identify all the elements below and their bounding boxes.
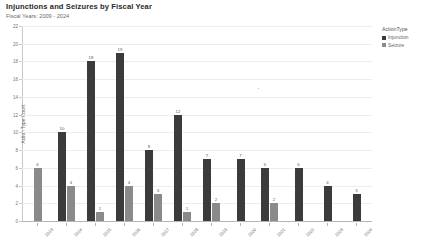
x-tick-mark [153, 223, 154, 226]
bar-seizure[interactable]: 4 [125, 186, 133, 221]
y-tick-label: 4 [15, 183, 18, 188]
x-tick-mark [240, 223, 241, 226]
bar-value-label: 8 [148, 144, 150, 149]
x-tick-mark [95, 223, 96, 226]
legend-title: ActionType [382, 26, 420, 32]
bar-group: 7 [226, 26, 255, 221]
legend-label: Injunction [388, 35, 409, 40]
y-tick-label: 10 [13, 130, 18, 135]
y-tick-label: 22 [13, 24, 18, 29]
bar-value-label: 4 [326, 180, 328, 185]
legend-label: Seizure [388, 43, 404, 48]
y-tick-label: 8 [15, 148, 18, 153]
bar-group: 4 [313, 26, 342, 221]
x-tick-mark [356, 223, 357, 226]
bar-value-label: 6 [264, 162, 266, 167]
bar-injunction[interactable]: 19 [116, 53, 124, 221]
bar-value-label: 12 [176, 109, 181, 114]
y-tick-mark [19, 97, 22, 98]
x-tick-label: 2022 [304, 227, 314, 237]
legend: ActionType InjunctionSeizure [382, 26, 420, 50]
bar-injunction[interactable]: 4 [324, 186, 332, 221]
chart-page: Injunctions and Seizures by Fiscal Year … [0, 0, 421, 240]
x-axis-labels: 2013201420152016201720182019202020212022… [22, 222, 372, 240]
y-tick-label: 20 [13, 41, 18, 46]
bar-value-label: 7 [206, 153, 208, 158]
bar-value-label: 10 [60, 126, 65, 131]
y-tick-label: 14 [13, 94, 18, 99]
y-tick-mark [19, 186, 22, 187]
bar-value-label: 2 [273, 197, 275, 202]
bar-value-label: 18 [89, 55, 94, 60]
y-tick-mark [19, 150, 22, 151]
bar-injunction[interactable]: 7 [203, 159, 211, 221]
bar-group: 62 [255, 26, 284, 221]
bar-value-label: 2 [215, 197, 217, 202]
bar-injunction[interactable]: 8 [145, 150, 153, 221]
bar-seizure[interactable]: 2 [212, 203, 220, 221]
y-tick-mark [19, 61, 22, 62]
bar-injunction[interactable]: 12 [174, 115, 182, 221]
y-tick-label: 2 [15, 201, 18, 206]
bar-group: 6 [23, 26, 52, 221]
x-tick-label: 2013 [43, 227, 53, 237]
bar-group: 181 [81, 26, 110, 221]
y-tick-label: 6 [15, 165, 18, 170]
bar-group: 194 [110, 26, 139, 221]
x-tick-label: 2016 [130, 227, 140, 237]
bar-value-label: 19 [118, 47, 123, 52]
x-tick-label: 2024 [362, 227, 372, 237]
x-tick-label: 2014 [72, 227, 82, 237]
y-tick-mark [19, 203, 22, 204]
x-tick-mark [124, 223, 125, 226]
y-tick-mark [19, 132, 22, 133]
x-tick-label: 2017 [159, 227, 169, 237]
bar-injunction[interactable]: 7 [237, 159, 245, 221]
x-tick-label: 2021 [275, 227, 285, 237]
bar-group: 3 [342, 26, 371, 221]
page-title: Injunctions and Seizures by Fiscal Year [6, 2, 152, 11]
x-tick-mark [269, 223, 270, 226]
bar-seizure[interactable]: 1 [183, 212, 191, 221]
bar-value-label: 6 [297, 162, 299, 167]
bar-group: 83 [139, 26, 168, 221]
bar-seizure[interactable]: 2 [270, 203, 278, 221]
y-tick-mark [19, 168, 22, 169]
bar-value-label: 3 [157, 188, 159, 193]
x-tick-mark [211, 223, 212, 226]
x-tick-label: 2020 [246, 227, 256, 237]
bar-seizure[interactable]: 6 [34, 168, 42, 221]
bar-value-label: 1 [99, 206, 101, 211]
bar-seizure[interactable]: 4 [67, 186, 75, 221]
bar-injunction[interactable]: 6 [261, 168, 269, 221]
y-tick-mark [19, 79, 22, 80]
x-tick-label: 2015 [101, 227, 111, 237]
y-tick-label: 18 [13, 59, 18, 64]
bar-seizure[interactable]: 3 [154, 194, 162, 221]
page-subtitle: Fiscal Years: 2009 - 2024 [6, 13, 69, 19]
bar-injunction[interactable]: 3 [353, 194, 361, 221]
plot-area: Action Type Count 0246810121416182022 61… [22, 26, 372, 222]
x-tick-mark [327, 223, 328, 226]
legend-item[interactable]: Injunction [382, 35, 420, 40]
bar-injunction[interactable]: 6 [295, 168, 303, 221]
bar-value-label: 4 [128, 180, 130, 185]
legend-swatch-injunction [382, 36, 386, 40]
bar-injunction[interactable]: 18 [87, 61, 95, 221]
y-tick-mark [19, 44, 22, 45]
y-tick-mark [19, 26, 22, 27]
legend-swatch-seizure [382, 43, 386, 47]
bar-value-label: 3 [355, 188, 357, 193]
bar-group: 72 [197, 26, 226, 221]
bar-value-label: 1 [186, 206, 188, 211]
bar-group: 6 [284, 26, 313, 221]
bar-groups: 61041811948312172762643 [23, 26, 372, 221]
legend-item[interactable]: Seizure [382, 43, 420, 48]
stray-marker [258, 88, 259, 89]
x-tick-mark [37, 223, 38, 226]
bar-seizure[interactable]: 1 [96, 212, 104, 221]
bar-injunction[interactable]: 10 [58, 132, 66, 221]
x-tick-label: 2019 [217, 227, 227, 237]
bar-value-label: 6 [36, 162, 38, 167]
y-tick-label: 16 [13, 77, 18, 82]
